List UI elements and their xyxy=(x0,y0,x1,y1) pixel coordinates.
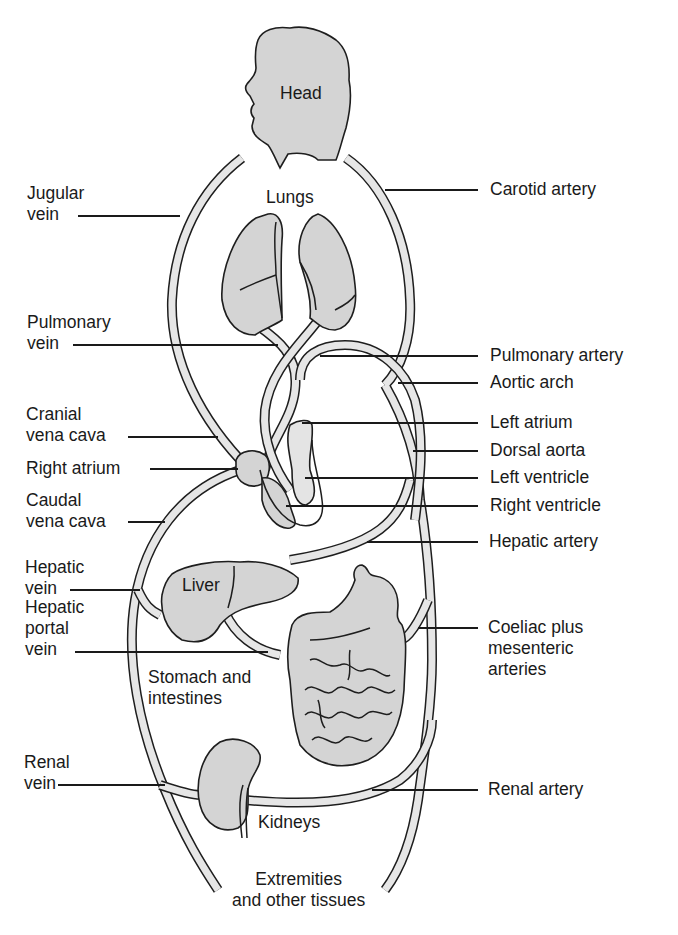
label-coeliac-mesenteric-arteries: Coeliac plus mesenteric arteries xyxy=(488,617,583,680)
label-right-atrium: Right atrium xyxy=(26,458,120,479)
label-left-atrium: Left atrium xyxy=(490,412,573,433)
organ-label-lungs: Lungs xyxy=(266,187,314,208)
label-carotid-artery: Carotid artery xyxy=(490,179,596,200)
label-left-ventricle: Left ventricle xyxy=(490,467,589,488)
label-caudal-vena-cava: Caudal vena cava xyxy=(26,490,106,532)
label-aortic-arch: Aortic arch xyxy=(490,372,574,393)
label-pulmonary-vein: Pulmonary vein xyxy=(27,312,111,354)
kidneys-illustration xyxy=(198,739,260,838)
organ-label-extremities: Extremities and other tissues xyxy=(232,869,365,911)
organ-label-head: Head xyxy=(280,83,322,104)
label-cranial-vena-cava: Cranial vena cava xyxy=(26,404,106,446)
label-right-ventricle: Right ventricle xyxy=(490,495,601,516)
organ-label-liver: Liver xyxy=(182,575,220,596)
stomach-intestines-illustration xyxy=(288,565,406,766)
label-renal-vein: Renal vein xyxy=(24,752,70,794)
lungs-illustration xyxy=(222,214,356,335)
label-hepatic-portal-vein: Hepatic portal vein xyxy=(25,597,84,660)
label-jugular-vein: Jugular vein xyxy=(27,183,84,225)
label-renal-artery: Renal artery xyxy=(488,779,583,800)
organ-label-stomach-intestines: Stomach and intestines xyxy=(148,667,251,709)
organ-label-kidneys: Kidneys xyxy=(258,812,320,833)
label-hepatic-vein: Hepatic vein xyxy=(25,557,84,599)
label-hepatic-artery: Hepatic artery xyxy=(489,531,598,552)
label-dorsal-aorta: Dorsal aorta xyxy=(490,440,585,461)
label-pulmonary-artery: Pulmonary artery xyxy=(490,345,623,366)
